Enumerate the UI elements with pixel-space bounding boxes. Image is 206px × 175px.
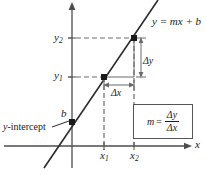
x1-subscript: 1 <box>105 154 109 163</box>
y2-subscript: 2 <box>59 36 63 45</box>
axis-ticks <box>68 38 134 150</box>
slope-formula-equals: = <box>156 116 162 127</box>
slope-formula: m = Δy Δx <box>147 110 179 134</box>
delta-y-label: Δy <box>143 56 153 66</box>
x2-subscript: 2 <box>135 154 139 163</box>
y2-axis-label: y2 <box>54 32 63 44</box>
delta-x-label: Δx <box>111 88 121 98</box>
slope-formula-m: m <box>147 116 154 127</box>
y-intercept-annotation: y-intercept <box>3 122 46 132</box>
y1-axis-label: y1 <box>54 70 63 82</box>
y1-subscript: 1 <box>59 74 63 83</box>
y-axis <box>69 2 76 168</box>
function-line <box>44 0 158 168</box>
slope-diagram-figure: y2 y1 x1 x2 x b y-intercept y = mx + b Δ… <box>0 0 206 175</box>
b-intercept-label: b <box>61 108 67 119</box>
point-marker-2 <box>131 35 137 41</box>
x-axis <box>4 143 192 149</box>
point-marker-intercept <box>69 119 75 125</box>
slope-formula-fraction: Δy Δx <box>165 110 179 134</box>
x1-axis-label: x1 <box>100 150 109 162</box>
point-marker-1 <box>101 74 107 80</box>
x2-axis-label: x2 <box>130 150 139 162</box>
x-axis-name-label: x <box>195 139 200 150</box>
slope-formula-box: m = Δy Δx <box>133 104 193 139</box>
y-intercept-leader-line <box>52 121 69 127</box>
y-intercept-rest: -intercept <box>7 121 45 132</box>
slope-formula-numerator: Δy <box>165 110 179 121</box>
slope-formula-denominator: Δx <box>165 123 179 134</box>
figure-caption <box>0 168 206 175</box>
line-equation-label: y = mx + b <box>152 16 201 27</box>
